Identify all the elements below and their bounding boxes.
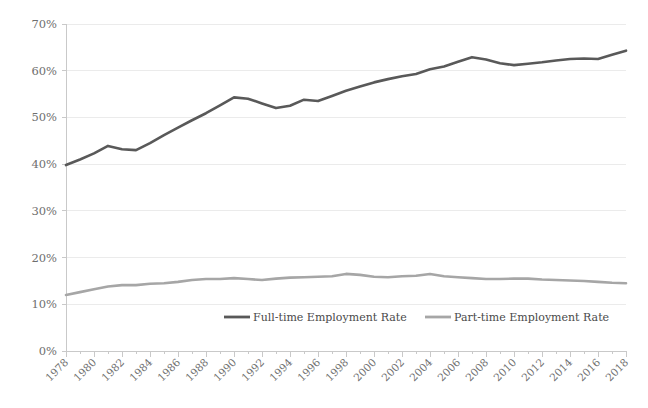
y-axis-tick-label: 10% [31,297,57,311]
x-axis-tick-label: 1992 [239,356,266,383]
y-axis-tick-label: 0% [39,344,57,358]
legend-label: Full-time Employment Rate [253,311,407,324]
series-line-part-time [66,274,626,295]
x-axis-tick-label: 2002 [379,356,406,383]
x-axis-tick-label: 1988 [183,356,210,383]
x-axis-tick-label: 2006 [435,356,463,384]
y-axis-group: 70%60%50%40%30%20%10%0% [31,17,66,358]
x-axis-tick-label: 1982 [99,356,126,383]
x-axis-tick-label: 1996 [295,356,323,384]
y-axis-tick-label: 20% [31,251,57,265]
employment-rate-line-chart: 70%60%50%40%30%20%10%0% 1978198019821984… [0,0,648,408]
x-axis-tick-label: 1978 [43,356,70,383]
x-axis-group: 1978198019821984198619881990199219941996… [43,351,630,383]
x-axis-tick-label: 2008 [463,356,490,383]
legend-label: Part-time Employment Rate [454,311,609,324]
x-axis-tick-label: 1984 [127,356,155,384]
y-axis-tick-label: 70% [31,17,57,31]
series-group [66,51,626,295]
y-axis-tick-label: 50% [31,110,57,124]
x-axis-tick-label: 1998 [323,356,350,383]
y-axis-tick-label: 40% [31,157,57,171]
x-axis-tick-label: 2010 [491,356,518,383]
x-axis-tick-label: 2018 [603,356,630,383]
x-axis-tick-label: 1986 [155,356,183,384]
y-axis-tick-label: 30% [31,204,57,218]
x-axis-tick-label: 1980 [71,356,98,383]
x-axis-tick-label: 2012 [519,356,546,383]
series-line-full-time [66,51,626,165]
x-axis-tick-label: 2014 [547,356,575,384]
x-axis-tick-label: 1990 [211,356,238,383]
y-axis-tick-label: 60% [31,64,57,78]
x-axis-tick-label: 1994 [267,356,295,384]
chart-legend: Full-time Employment RatePart-time Emplo… [224,311,609,324]
chart-canvas: 70%60%50%40%30%20%10%0% 1978198019821984… [0,0,648,408]
gridlines-group [66,24,626,304]
x-axis-tick-label: 2016 [575,356,603,384]
x-axis-tick-label: 2004 [407,356,435,384]
x-axis-tick-label: 2000 [351,356,378,383]
